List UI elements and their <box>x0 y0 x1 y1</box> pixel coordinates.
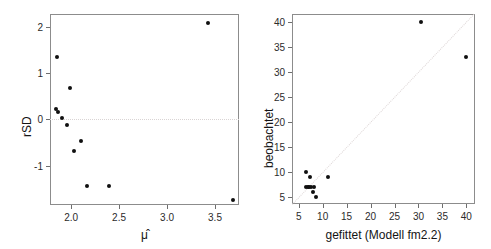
x-tick-label: 3.5 <box>208 212 222 223</box>
x-tick-mark <box>418 204 419 208</box>
y-tick-mark <box>46 166 50 167</box>
x-tick-mark <box>299 204 300 208</box>
x-tick-mark <box>371 204 372 208</box>
y-tick-mark <box>46 27 50 28</box>
x-tick-label: 20 <box>365 211 376 222</box>
data-point <box>60 116 64 120</box>
y-tick-mark <box>288 97 292 98</box>
x-axis-title-left: μ̂ <box>141 228 148 242</box>
y-axis-title-right: beobachtet <box>262 109 276 168</box>
y-tick-mark <box>288 147 292 148</box>
x-tick-mark <box>395 204 396 208</box>
panel-left-rsd-vs-muhat: -10122.02.53.03.5 μ̂ rSD <box>0 0 245 249</box>
y-axis-title-left: rSD <box>20 116 34 137</box>
y-tick-mark <box>288 122 292 123</box>
data-point <box>107 184 111 188</box>
panel-right-observed-vs-fitted: 510152025303540510152025303540 gefittet … <box>246 0 491 249</box>
plot-frame-right <box>292 14 475 204</box>
data-point <box>68 86 72 90</box>
y-tick-label: 25 <box>248 91 285 102</box>
x-tick-mark <box>167 205 168 209</box>
data-point <box>72 149 76 153</box>
x-tick-label: 30 <box>413 211 424 222</box>
mu-hat-glyph: μ̂ <box>141 228 148 242</box>
x-tick-mark <box>442 204 443 208</box>
data-point <box>56 110 60 114</box>
y-tick-mark <box>288 72 292 73</box>
data-point <box>79 139 83 143</box>
x-tick-label: 2.0 <box>64 212 78 223</box>
data-point <box>85 184 89 188</box>
data-point <box>326 175 330 179</box>
y-tick-mark <box>288 22 292 23</box>
y-tick-label: 40 <box>248 16 285 27</box>
x-tick-mark <box>119 205 120 209</box>
y-tick-label: 2 <box>6 21 43 32</box>
data-point <box>464 55 468 59</box>
x-tick-mark <box>466 204 467 208</box>
y-tick-label: -1 <box>6 160 43 171</box>
x-tick-label: 5 <box>296 211 302 222</box>
data-point <box>206 21 210 25</box>
x-tick-label: 25 <box>389 211 400 222</box>
data-point <box>231 198 235 202</box>
x-tick-label: 15 <box>341 211 352 222</box>
y-tick-label: 35 <box>248 41 285 52</box>
y-tick-mark <box>46 73 50 74</box>
x-tick-label: 2.5 <box>112 212 126 223</box>
data-point <box>304 170 308 174</box>
y-tick-label: 1 <box>6 68 43 79</box>
x-tick-mark <box>347 204 348 208</box>
x-tick-label: 40 <box>461 211 472 222</box>
data-point <box>308 175 312 179</box>
data-point <box>55 55 59 59</box>
y-tick-mark <box>288 172 292 173</box>
y-tick-label: 10 <box>248 166 285 177</box>
x-tick-mark <box>323 204 324 208</box>
y-tick-mark <box>288 47 292 48</box>
y-tick-mark <box>288 197 292 198</box>
data-point <box>65 123 69 127</box>
plot-frame-left <box>50 14 239 205</box>
data-point <box>311 190 315 194</box>
x-tick-mark <box>215 205 216 209</box>
figure-two-panel-scatter: -10122.02.53.03.5 μ̂ rSD 510152025303540… <box>0 0 491 249</box>
x-tick-label: 10 <box>317 211 328 222</box>
data-point <box>312 185 316 189</box>
y-tick-mark <box>46 119 50 120</box>
x-tick-mark <box>71 205 72 209</box>
data-point <box>314 195 318 199</box>
y-tick-label: 30 <box>248 66 285 77</box>
data-point <box>419 20 423 24</box>
x-axis-title-right: gefittet (Modell fm2.2) <box>325 228 441 242</box>
x-tick-label: 3.0 <box>160 212 174 223</box>
y-tick-label: 5 <box>248 191 285 202</box>
x-tick-label: 35 <box>437 211 448 222</box>
